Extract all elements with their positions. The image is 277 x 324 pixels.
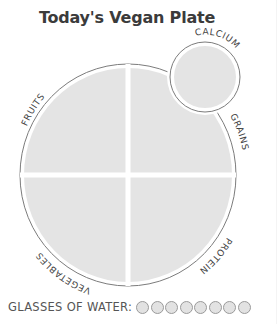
section-fruits[interactable] (24, 68, 128, 175)
section-protein[interactable] (128, 175, 232, 282)
page-edge (276, 0, 277, 324)
water-glass-5[interactable] (194, 301, 207, 314)
water-glass-2[interactable] (151, 301, 164, 314)
water-glass-4[interactable] (180, 301, 193, 314)
water-glass-8[interactable] (238, 301, 251, 314)
water-glass-6[interactable] (209, 301, 222, 314)
section-vegetables[interactable] (24, 175, 128, 282)
horizontal-divider (20, 173, 236, 178)
water-tracker: GLASSES OF WATER: (8, 300, 252, 314)
water-glass-3[interactable] (165, 301, 178, 314)
section-calcium[interactable] (174, 46, 236, 108)
water-glass-1[interactable] (136, 301, 149, 314)
water-label: GLASSES OF WATER: (8, 300, 132, 314)
water-glass-7[interactable] (223, 301, 236, 314)
vegan-plate: FRUITS GRAINS PROTEIN VEGETABLES CALCIUM (0, 0, 277, 324)
